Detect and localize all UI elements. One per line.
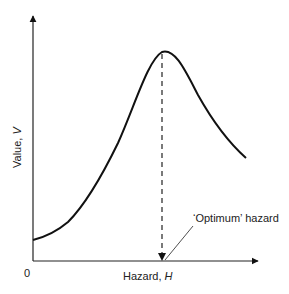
y-axis-label: Value, V <box>12 127 23 168</box>
y-axis-label-var: V <box>11 127 23 134</box>
annotation-leader-line <box>165 226 193 260</box>
optimum-hazard-annotation: ‘Optimum’ hazard <box>193 213 279 224</box>
x-axis-label: Hazard, H <box>123 271 173 282</box>
chart-canvas <box>0 0 289 294</box>
x-axis-label-var: H <box>165 270 173 282</box>
x-axis-label-text: Hazard, <box>123 270 165 282</box>
origin-label: 0 <box>24 268 30 279</box>
y-axis-label-text: Value, <box>11 135 23 168</box>
